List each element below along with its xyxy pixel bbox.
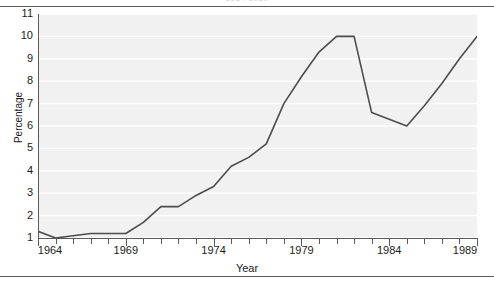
- x-tick-minor: [284, 239, 285, 244]
- x-tick-minor: [442, 239, 443, 244]
- x-tick-minor: [249, 239, 250, 244]
- x-tick-minor: [424, 239, 425, 244]
- x-tick-minor: [266, 239, 267, 244]
- x-tick-label: 1969: [114, 244, 138, 256]
- y-tick-label: 10: [5, 30, 33, 41]
- y-tick-label: 11: [5, 8, 33, 19]
- x-tick-minor: [231, 239, 232, 244]
- x-tick-label: 1989: [453, 244, 477, 256]
- bottom-divider-rule: [0, 276, 494, 277]
- x-tick-label: 1974: [201, 244, 225, 256]
- line-chart-svg: [38, 14, 477, 238]
- y-axis-line: [38, 14, 39, 239]
- x-tick-minor: [372, 239, 373, 244]
- x-tick-minor: [108, 239, 109, 244]
- x-tick-minor: [337, 239, 338, 244]
- y-tick-label: 2: [5, 210, 33, 221]
- clipped-title: 1964-1989: [0, 0, 494, 2]
- x-axis-title: Year: [0, 262, 494, 274]
- y-tick-label: 9: [5, 53, 33, 64]
- x-tick-minor: [407, 239, 408, 244]
- x-tick-minor: [73, 239, 74, 244]
- y-tick-label: 3: [5, 187, 33, 198]
- x-tick-label: 1964: [38, 244, 62, 256]
- x-tick-minor: [178, 239, 179, 244]
- x-tick-minor: [161, 239, 162, 244]
- y-tick-label: 4: [5, 165, 33, 176]
- x-tick-minor: [196, 239, 197, 244]
- x-tick-label: 1984: [377, 244, 401, 256]
- top-divider-rule: [0, 6, 494, 7]
- x-axis-line: [38, 238, 478, 239]
- x-tick-minor: [354, 239, 355, 244]
- y-axis-title: Percentage: [13, 78, 24, 158]
- chart-figure: 1964-1989 1234567891011 1964196919741979…: [0, 0, 494, 284]
- plot-area: [38, 14, 477, 238]
- x-tick-minor: [319, 239, 320, 244]
- gridlines: [38, 14, 477, 238]
- y-tick-label: 1: [5, 232, 33, 243]
- data-series-line: [38, 36, 477, 238]
- x-tick-label: 1979: [289, 244, 313, 256]
- x-tick-minor: [143, 239, 144, 244]
- x-tick-minor: [91, 239, 92, 244]
